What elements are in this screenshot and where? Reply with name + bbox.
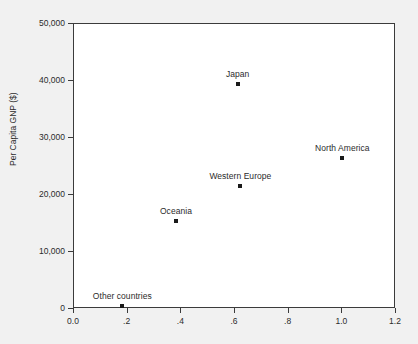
y-axis-tick-label: 30,000 [39, 132, 65, 142]
y-axis-title: Per Capita GNP ($) [8, 92, 18, 166]
data-point-marker [340, 156, 344, 160]
data-point-marker [120, 304, 124, 308]
x-axis-tick-label: 0.0 [67, 316, 79, 326]
data-point-label: Oceania [160, 206, 192, 216]
x-axis-tick-mark [127, 308, 128, 313]
data-point-label: Western Europe [209, 171, 271, 181]
x-axis-tick-mark [288, 308, 289, 313]
x-axis-tick-label: .8 [284, 316, 291, 326]
y-axis-tick-label: 0 [60, 303, 65, 313]
x-axis-tick-label: 1.0 [335, 316, 347, 326]
x-axis-tick-label: .4 [177, 316, 184, 326]
data-point-marker [174, 219, 178, 223]
plot-area: Other countriesOceaniaWestern EuropeJapa… [73, 23, 395, 308]
data-point-label: North America [315, 143, 370, 153]
data-point-label: Other countries [93, 291, 152, 301]
x-axis-tick-label: .2 [123, 316, 130, 326]
x-axis-tick-mark [341, 308, 342, 313]
scatter-chart: Per Capita GNP ($) 010,00020,00030,00040… [0, 0, 418, 344]
x-axis-tick-mark [180, 308, 181, 313]
y-axis-tick-label: 40,000 [39, 75, 65, 85]
x-axis-tick-mark [395, 308, 396, 313]
y-axis-tick-label: 20,000 [39, 189, 65, 199]
x-axis-tick-label: 1.2 [389, 316, 401, 326]
data-point-marker [238, 184, 242, 188]
y-axis-tick-label: 10,000 [39, 246, 65, 256]
x-axis-tick-label: .6 [230, 316, 237, 326]
x-axis-tick-mark [234, 308, 235, 313]
x-axis-tick-mark [73, 308, 74, 313]
data-point-marker [236, 82, 240, 86]
y-axis-tick-label: 50,000 [39, 18, 65, 28]
data-point-label: Japan [226, 69, 249, 79]
